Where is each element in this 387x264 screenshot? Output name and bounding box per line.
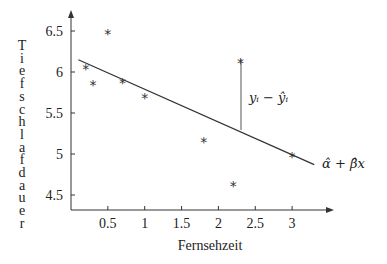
regression-label: α̂ + β̂x	[322, 156, 365, 171]
data-point: *	[289, 149, 296, 165]
data-point: *	[82, 61, 89, 77]
data-point: *	[200, 134, 207, 150]
svg-text:3: 3	[289, 216, 296, 231]
svg-text:6: 6	[56, 65, 63, 80]
svg-text:5.5: 5.5	[46, 106, 64, 121]
data-point: *	[119, 75, 126, 91]
data-points: *********	[82, 26, 295, 194]
svg-text:1.5: 1.5	[173, 216, 191, 231]
svg-text:6.5: 6.5	[46, 24, 64, 39]
chart-figure: Tiefschlafdauer 0.511.522.53 4.555.566.5…	[0, 0, 387, 264]
data-point: *	[141, 90, 148, 106]
svg-text:2: 2	[215, 216, 222, 231]
data-point: *	[230, 178, 237, 194]
data-point: *	[104, 26, 111, 42]
svg-text:2.5: 2.5	[247, 216, 265, 231]
svg-text:5: 5	[56, 147, 63, 162]
residual-label: yᵢ − ŷᵢ	[248, 90, 288, 105]
x-axis-label: Fernsehzeit	[178, 238, 243, 253]
data-point: *	[90, 77, 97, 93]
svg-text:0.5: 0.5	[99, 216, 117, 231]
data-point: *	[237, 55, 244, 71]
plot-area: 0.511.522.53 4.555.566.5 yᵢ − ŷᵢ α̂ + β̂…	[0, 0, 387, 264]
regression-line	[78, 60, 314, 165]
svg-text:4.5: 4.5	[46, 188, 64, 203]
svg-text:1: 1	[141, 216, 148, 231]
